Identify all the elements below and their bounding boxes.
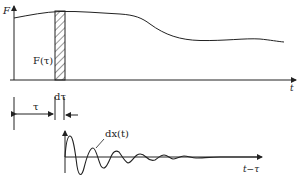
force-x-axis-label: t — [290, 83, 294, 93]
force-plot: F F(τ) t — [2, 5, 296, 93]
response-label: dx(t) — [105, 128, 129, 139]
strip-label: F(τ) — [33, 55, 53, 66]
duhamel-diagram: F F(τ) t τ dτ dx(t) t−τ — [0, 0, 301, 180]
response-plot: dx(t) t−τ — [65, 128, 262, 175]
response-x-axis-label: t−τ — [243, 164, 260, 174]
dimension-marks: τ dτ — [14, 91, 78, 130]
response-leader-line — [96, 139, 104, 148]
dtau-label: dτ — [54, 91, 66, 102]
force-y-axis-label: F — [2, 5, 11, 16]
tau-label: τ — [33, 101, 39, 112]
impulse-strip — [55, 11, 65, 80]
response-curve — [65, 136, 260, 175]
